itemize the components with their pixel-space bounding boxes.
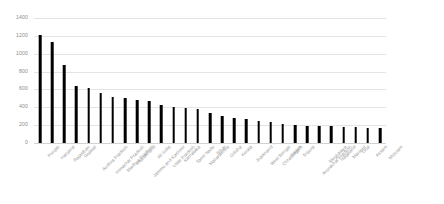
bar-slot: [362, 18, 374, 143]
bar[interactable]: [330, 126, 333, 143]
bar[interactable]: [269, 122, 272, 143]
bar-slot: [107, 18, 119, 143]
bar[interactable]: [148, 101, 151, 143]
bar-slot: [301, 18, 313, 143]
bar-slot: [192, 18, 204, 143]
bar-slot: [289, 18, 301, 143]
x-tick-label: Sikkim: [290, 145, 303, 158]
plot-area: [34, 18, 386, 143]
bar[interactable]: [184, 108, 187, 143]
y-tick-label: 800: [19, 69, 28, 74]
y-tick-label: 400: [19, 105, 28, 110]
bar[interactable]: [63, 65, 66, 143]
bar[interactable]: [99, 93, 102, 143]
bar[interactable]: [75, 86, 78, 143]
bar-slot: [155, 18, 167, 143]
bar-slot: [374, 18, 386, 143]
y-tick-label: 1200: [16, 33, 28, 38]
bar[interactable]: [197, 109, 200, 143]
y-axis: 0200400600800100012001400: [0, 18, 32, 143]
bar[interactable]: [172, 107, 175, 143]
bar[interactable]: [51, 42, 54, 143]
x-tick-label: Mizoram: [388, 145, 404, 161]
bar[interactable]: [124, 98, 127, 143]
bar-slot: [143, 18, 155, 143]
bar-slot: [180, 18, 192, 143]
y-tick-label: 600: [19, 87, 28, 92]
bar-slot: [240, 18, 252, 143]
bar[interactable]: [245, 119, 248, 143]
x-axis-labels: PunjabHaryanaRajasthanGujaratAndhra Prad…: [34, 145, 386, 201]
bar-series: [34, 18, 386, 143]
bar[interactable]: [257, 121, 260, 143]
bar-slot: [204, 18, 216, 143]
bar[interactable]: [306, 126, 309, 143]
x-tick-label: Tripura: [302, 145, 316, 159]
bar-slot: [119, 18, 131, 143]
bar[interactable]: [354, 127, 357, 143]
bar-chart-figure: 0200400600800100012001400 PunjabHaryanaR…: [0, 0, 444, 204]
bar-slot: [350, 18, 362, 143]
bar-slot: [277, 18, 289, 143]
bar-slot: [228, 18, 240, 143]
bar[interactable]: [209, 113, 212, 143]
bar[interactable]: [366, 128, 369, 143]
y-tick-label: 0: [25, 140, 28, 145]
bar[interactable]: [294, 125, 297, 143]
bar-slot: [70, 18, 82, 143]
bar[interactable]: [282, 124, 285, 143]
bar[interactable]: [318, 126, 321, 143]
bar[interactable]: [136, 100, 139, 143]
y-tick-label: 1000: [16, 51, 28, 56]
bar[interactable]: [112, 97, 115, 143]
bar-slot: [252, 18, 264, 143]
bar[interactable]: [233, 118, 236, 143]
bar-slot: [58, 18, 70, 143]
bar-slot: [337, 18, 349, 143]
bar-slot: [325, 18, 337, 143]
bar-slot: [34, 18, 46, 143]
bar-slot: [168, 18, 180, 143]
bar[interactable]: [221, 116, 224, 143]
bar-slot: [313, 18, 325, 143]
bar[interactable]: [342, 127, 345, 143]
bar[interactable]: [87, 88, 90, 143]
bar-slot: [265, 18, 277, 143]
bar-slot: [216, 18, 228, 143]
bar-slot: [83, 18, 95, 143]
bar-slot: [46, 18, 58, 143]
bar[interactable]: [160, 105, 163, 143]
x-tick-label: Kerala: [241, 145, 254, 158]
bar[interactable]: [379, 128, 382, 143]
y-tick-label: 200: [19, 123, 28, 128]
bar[interactable]: [39, 35, 42, 143]
bar-slot: [95, 18, 107, 143]
bar-slot: [131, 18, 143, 143]
y-tick-label: 1400: [16, 15, 28, 20]
